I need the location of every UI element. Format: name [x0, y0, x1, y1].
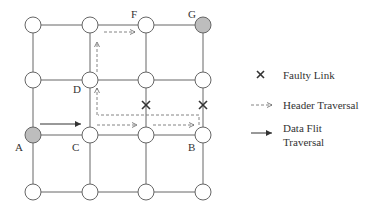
- label-a: A: [15, 142, 23, 153]
- label-f: F: [131, 9, 137, 20]
- legend-data-flit-line1: Data Flit: [283, 122, 322, 136]
- mesh-nodes: [25, 17, 211, 200]
- label-g: G: [188, 9, 196, 20]
- node-b: [195, 127, 211, 143]
- legend-faulty-link-icon: [257, 71, 264, 78]
- label-b: B: [188, 142, 195, 153]
- legend-faulty-link: Faulty Link: [283, 69, 335, 83]
- mesh-links: [33, 25, 203, 192]
- label-c: C: [72, 142, 79, 153]
- legend-data-flit-line2: Traversal: [283, 136, 324, 150]
- node-c: [82, 127, 98, 143]
- node-d: [82, 72, 98, 88]
- legend-header-traversal: Header Traversal: [283, 99, 358, 113]
- node-g: [195, 17, 211, 33]
- faulty-link-icon: [142, 101, 207, 109]
- label-d: D: [73, 84, 81, 95]
- node-a: [25, 127, 41, 143]
